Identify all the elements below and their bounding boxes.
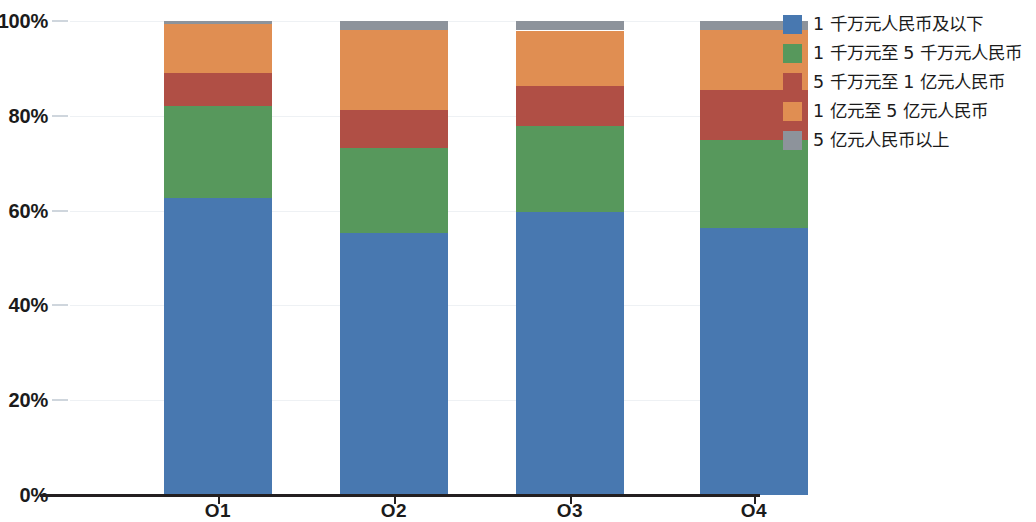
bar-segment [164,21,272,24]
x-axis-line [40,494,760,497]
x-axis-tick-label-o3: O3 [557,500,583,522]
bar-o2 [340,21,448,495]
legend-swatch-icon [783,15,802,34]
bar-segment [340,233,448,495]
legend-swatch-icon [783,102,802,121]
bar-o3 [516,21,624,495]
bar-segment [164,73,272,106]
bar-segment [516,31,624,87]
bar-segment [700,228,808,495]
legend-item[interactable]: 5 亿元人民币以上 [783,128,1033,156]
y-axis-tick-mark [52,399,68,401]
legend-label: 1 亿元至 5 亿元人民币 [813,99,988,124]
plot-area [70,21,760,495]
legend-item[interactable]: 1 千万元至 5 千万元人民币 [783,41,1033,69]
y-axis-tick-mark [52,20,68,22]
legend: 1 千万元人民币及以下1 千万元至 5 千万元人民币5 千万元至 1 亿元人民币… [783,12,1033,157]
legend-label: 5 亿元人民币以上 [813,128,949,153]
bar-segment [164,24,272,73]
legend-swatch-icon [783,73,802,92]
y-axis-tick-mark [52,210,68,212]
x-axis-tick-label-o2: O2 [381,500,407,522]
legend-item[interactable]: 5 千万元至 1 亿元人民币 [783,70,1033,98]
legend-item[interactable]: 1 千万元人民币及以下 [783,12,1033,40]
bar-segment [164,106,272,198]
legend-label: 1 千万元至 5 千万元人民币 [813,41,1022,66]
legend-label: 5 千万元至 1 亿元人民币 [813,70,1005,95]
legend-swatch-icon [783,44,802,63]
legend-swatch-icon [783,131,802,150]
y-axis-tick-mark [52,115,68,117]
stacked-bar-chart: 0%20%40%60%80%100% O1O2O3O4 1 千万元人民币及以下1… [0,0,1036,522]
bar-segment [516,126,624,212]
legend-item[interactable]: 1 亿元至 5 亿元人民币 [783,99,1033,127]
bar-segment [516,212,624,495]
x-axis-tick-label-o1: O1 [205,500,231,522]
bar-segment [340,30,448,110]
bar-segment [340,21,448,30]
bar-segment [340,110,448,148]
y-axis-tick-mark [52,304,68,306]
bar-segment [516,86,624,126]
legend-label: 1 千万元人民币及以下 [813,12,983,37]
bar-segment [164,198,272,495]
bar-segment [340,148,448,233]
bar-o1 [164,21,272,495]
x-axis-tick-label-o4: O4 [741,500,767,522]
bar-segment [516,21,624,30]
